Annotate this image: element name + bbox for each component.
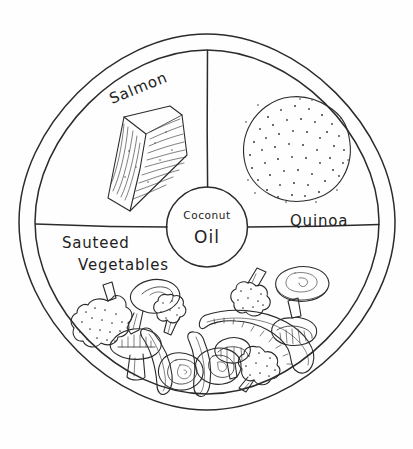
salmon-label-text: Salmon: [107, 68, 170, 108]
broccoli-floret: [71, 282, 132, 347]
quinoa-section-label: Quinoa: [290, 212, 348, 230]
labels-layer: Salmon Quinoa Sauteed Vegetables Coconut…: [62, 68, 348, 274]
salmon-fillet-icon: [108, 106, 187, 211]
coconut-oil-hub-label: Coconut Oil: [183, 209, 231, 247]
onion-ring: [276, 267, 329, 302]
salmon-section-label: Salmon: [107, 68, 170, 108]
broccoli-floret: [154, 294, 186, 335]
mushroom-slice: [272, 298, 317, 346]
pepper-strip: [188, 332, 211, 397]
vegetables-label-line2: Vegetables: [78, 256, 169, 274]
broccoli-floret: [231, 268, 270, 316]
quinoa-label-text: Quinoa: [290, 212, 348, 230]
coconut-label-text: Coconut: [183, 209, 231, 221]
sauteed-vegetables-section-label: Sauteed Vegetables: [62, 234, 169, 274]
oil-label-text: Oil: [194, 227, 220, 247]
plate-diagram: Salmon Quinoa Sauteed Vegetables Coconut…: [0, 0, 413, 449]
vegetables-label-line1: Sauteed: [62, 234, 130, 252]
section-dividers: [36, 51, 379, 228]
broccoli-floret: [238, 346, 280, 392]
